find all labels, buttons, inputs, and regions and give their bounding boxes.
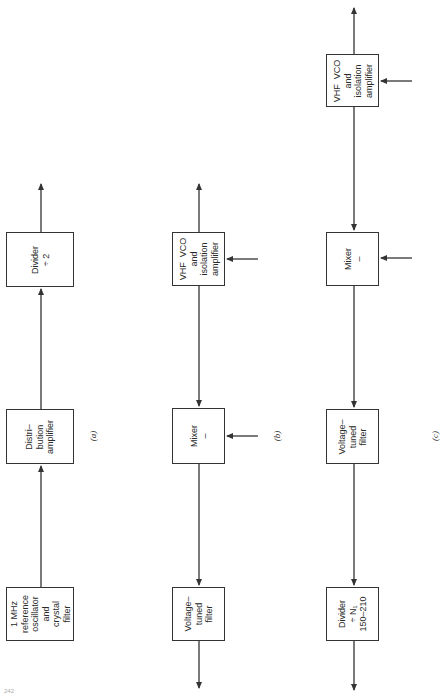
c-voltage-tuned-filter-label: Voltage– tuned filter [337,419,369,454]
b-mixer-block: Mixer – [172,408,225,464]
b-voltage-tuned-filter-block: Voltage– tuned filter [172,587,225,641]
b-mixer-label: Mixer – [188,425,209,447]
divider-2-label: Divider ÷ 2 [30,245,51,273]
caption-b: (b) [272,431,282,442]
caption-c: (c) [430,431,440,441]
page-number: 242 [4,688,14,694]
c-divider-n1-block: Divider ÷ N₁ 150–210 [326,587,379,641]
b-voltage-tuned-filter-label: Voltage– tuned filter [183,596,215,631]
distribution-amplifier-label: Distri– bution amplifier [24,419,56,453]
distribution-amplifier-block: Distri– bution amplifier [6,409,74,464]
caption-a: (a) [88,431,98,442]
b-vhf-vco-label: VHF VCO and isolation amplifier [178,238,220,281]
b-vhf-vco-block: VHF VCO and isolation amplifier [172,232,225,286]
c-mixer-block: Mixer – [326,232,379,286]
c-voltage-tuned-filter-block: Voltage– tuned filter [326,409,379,464]
c-mixer-label: Mixer – [342,248,363,270]
ref-oscillator-label: 1 MHz reference oscillator and crystal f… [9,595,72,633]
ref-oscillator-block: 1 MHz reference oscillator and crystal f… [6,587,74,641]
c-divider-n1-label: Divider ÷ N₁ 150–210 [337,596,369,631]
c-vhf-vco-label: VHF VCO and isolation amplifier [332,59,374,102]
c-vhf-vco-block: VHF VCO and isolation amplifier [326,54,379,107]
divider-2-block: Divider ÷ 2 [6,232,74,287]
